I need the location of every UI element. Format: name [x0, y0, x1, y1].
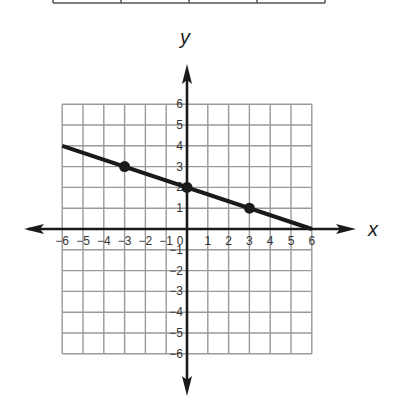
- x-tick-label: 3: [246, 234, 253, 248]
- y-tick-label: 6: [176, 97, 183, 111]
- y-tick-label: −5: [169, 326, 183, 340]
- y-tick-label: −1: [169, 243, 183, 257]
- x-tick-label: 4: [267, 234, 274, 248]
- axes: [24, 64, 356, 396]
- x-tick-label: −2: [139, 234, 153, 248]
- x-axis-label: x: [367, 218, 379, 240]
- x-tick-label: −5: [76, 234, 90, 248]
- x-tick-label: −3: [118, 234, 132, 248]
- x-tick-label: −4: [97, 234, 111, 248]
- table-fragment: [53, 0, 325, 3]
- coordinate-plane: −6−5−4−3−2−10123456−6−5−4−3−2−1123456 x …: [0, 0, 401, 414]
- y-tick-label: −3: [169, 284, 183, 298]
- y-tick-label: 4: [176, 139, 183, 153]
- x-tick-label: −6: [55, 234, 69, 248]
- y-tick-label: −6: [169, 347, 183, 361]
- y-axis-label: y: [178, 26, 191, 48]
- y-tick-label: 5: [176, 118, 183, 132]
- x-tick-label: 5: [288, 234, 295, 248]
- x-tick-label: 1: [204, 234, 211, 248]
- y-tick-label: 3: [176, 160, 183, 174]
- data-point: [119, 161, 130, 172]
- data-point: [244, 203, 255, 214]
- y-tick-label: 1: [176, 201, 183, 215]
- x-tick-label: 2: [225, 234, 232, 248]
- x-tick-label: 6: [308, 234, 315, 248]
- data-point: [182, 182, 193, 193]
- y-tick-label: −2: [169, 264, 183, 278]
- y-tick-label: −4: [169, 305, 183, 319]
